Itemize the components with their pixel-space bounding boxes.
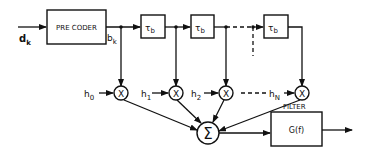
- svg-text:X: X: [173, 89, 179, 99]
- precoder-block: PRE CODER: [47, 10, 106, 44]
- filter-block: G(f): [271, 112, 322, 146]
- svg-text:hN: hN: [269, 89, 280, 102]
- weight-h2: h2: [191, 89, 218, 102]
- block-diagram: dk PRE CODER bk τb τb τb X: [0, 0, 373, 155]
- input-signal: dk: [18, 27, 46, 47]
- svg-text:h2: h2: [191, 89, 201, 102]
- multiplier-0: X: [114, 86, 128, 100]
- svg-text:h1: h1: [141, 89, 151, 102]
- svg-text:h0: h0: [84, 89, 94, 102]
- filter-label: G(f): [289, 126, 304, 135]
- multiplier-2: X: [219, 86, 233, 100]
- svg-text:X: X: [118, 89, 124, 99]
- input-subscript: k: [26, 39, 31, 47]
- delay-block-2: τb: [191, 15, 214, 38]
- delay-block-3: τb: [264, 15, 288, 38]
- filter-title: FILTER: [283, 103, 306, 111]
- svg-text:dk: dk: [19, 33, 31, 47]
- multiplier-n: X: [295, 86, 309, 100]
- sum-symbol: Σ: [203, 125, 212, 143]
- summer: Σ: [197, 122, 219, 144]
- weight-h0: h0: [84, 89, 113, 102]
- weight-hn: hN: [241, 89, 294, 102]
- weight-h1: h1: [141, 89, 168, 102]
- delay-block-1: τb: [141, 15, 165, 38]
- precoder-label: PRE CODER: [56, 24, 97, 32]
- input-label: d: [19, 33, 26, 44]
- precoder-output-label: bk: [107, 33, 118, 46]
- svg-text:X: X: [223, 89, 229, 99]
- multiplier-1: X: [169, 86, 183, 100]
- svg-text:X: X: [299, 89, 305, 99]
